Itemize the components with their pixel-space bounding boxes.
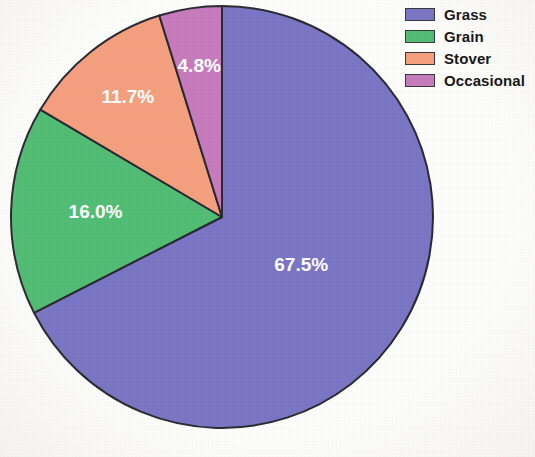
legend-item-grass[interactable]: Grass [405, 6, 525, 23]
legend-label-grass: Grass [444, 6, 487, 23]
pie-slice-label-grain: 16.0% [69, 201, 123, 222]
legend-item-stover[interactable]: Stover [405, 50, 525, 67]
legend-item-occasional[interactable]: Occasional [405, 72, 525, 89]
pie-chart-area: 67.5%16.0%11.7%4.8% [8, 3, 436, 431]
legend-swatch-stover [405, 52, 435, 65]
pie-chart-figure: 67.5%16.0%11.7%4.8% Grass Grain Stover O… [0, 0, 535, 457]
legend-label-grain: Grain [444, 28, 484, 45]
legend-item-grain[interactable]: Grain [405, 28, 525, 45]
legend-label-stover: Stover [444, 50, 491, 67]
legend-swatch-grass [405, 8, 435, 21]
legend-swatch-grain [405, 30, 435, 43]
pie-slice-label-grass: 67.5% [274, 254, 328, 275]
legend-label-occasional: Occasional [444, 72, 525, 89]
chart-legend: Grass Grain Stover Occasional [405, 6, 525, 89]
pie-slice-label-occasional: 4.8% [178, 55, 221, 76]
legend-swatch-occasional [405, 74, 435, 87]
pie-svg: 67.5%16.0%11.7%4.8% [8, 3, 436, 431]
pie-slice-label-stover: 11.7% [101, 86, 154, 107]
